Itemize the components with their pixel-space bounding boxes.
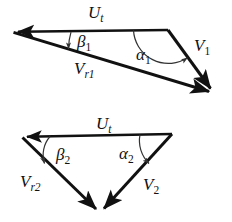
blade-speed-vector-1 bbox=[18, 30, 168, 32]
velocity-triangle-figure: Ut Vr1 V1 β1 α1 bbox=[0, 0, 232, 222]
velocity-triangle-canvas: Ut Vr1 V1 β1 α1 bbox=[0, 0, 232, 222]
